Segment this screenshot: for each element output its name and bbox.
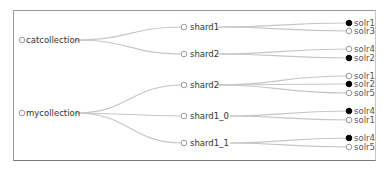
shard-node-my-shard1_1[interactable]: shard1_1 — [181, 138, 229, 148]
leader-node-icon — [346, 108, 352, 114]
replica-node[interactable]: solr5 — [346, 142, 375, 152]
shard-label: shard1 — [190, 22, 219, 32]
collection-node-catcollection[interactable]: catcollection — [19, 35, 80, 45]
link-shard2b-solr5 — [218, 85, 348, 93]
replica-node[interactable]: solr5 — [346, 88, 375, 98]
node-circle-icon — [181, 24, 187, 30]
replica-label: solr5 — [354, 88, 375, 98]
replica-node[interactable]: solr3 — [346, 26, 375, 36]
node-circle-icon — [181, 140, 187, 146]
link-shard1_1-solr5 — [230, 143, 348, 147]
shard-label: shard2 — [190, 49, 219, 59]
replica-node[interactable]: solr2 — [346, 53, 375, 63]
shard-node-my-shard1_0[interactable]: shard1_0 — [181, 111, 229, 121]
replica-node-icon — [346, 90, 352, 96]
cloud-tree-graph: catcollection mycollection shard1 shard2… — [0, 0, 392, 170]
collection-label: catcollection — [26, 35, 80, 45]
replica-label: solr1 — [354, 115, 375, 125]
leader-node-icon — [346, 20, 352, 26]
link-mycollection-shard2 — [75, 85, 183, 113]
link-shard1_1-solr4 — [230, 138, 348, 143]
replica-node-icon — [346, 28, 352, 34]
replica-node[interactable]: solr1 — [346, 115, 375, 125]
leader-node-icon — [346, 135, 352, 141]
shard-label: shard1_0 — [190, 111, 229, 121]
collection-node-mycollection[interactable]: mycollection — [19, 108, 80, 118]
link-shard1_0-solr4 — [230, 111, 348, 116]
collection-label: mycollection — [26, 108, 80, 118]
link-shard1_0-solr1 — [230, 116, 348, 120]
replica-label: solr5 — [354, 142, 375, 152]
link-shard2-solr2 — [218, 54, 348, 58]
replica-label: solr3 — [354, 26, 375, 36]
link-catcollection-shard1 — [75, 27, 183, 40]
shard-node-my-shard2[interactable]: shard2 — [181, 80, 219, 90]
node-circle-icon — [19, 37, 25, 43]
link-shard1-solr3 — [218, 27, 348, 31]
node-circle-icon — [181, 51, 187, 57]
node-circle-icon — [181, 82, 187, 88]
shard-node-cat-shard2[interactable]: shard2 — [181, 49, 219, 59]
node-circle-icon — [19, 110, 25, 116]
shard-label: shard2 — [190, 80, 219, 90]
replica-node-icon — [346, 73, 352, 79]
link-shard2-solr4 — [218, 49, 348, 54]
link-catcollection-shard2 — [75, 40, 183, 54]
shard-node-cat-shard1[interactable]: shard1 — [181, 22, 219, 32]
node-circle-icon — [181, 113, 187, 119]
leader-node-icon — [346, 81, 352, 87]
replica-node-icon — [346, 144, 352, 150]
link-shard1-solr1 — [218, 23, 348, 27]
replica-node-icon — [346, 117, 352, 123]
shard-label: shard1_1 — [190, 138, 229, 148]
link-mycollection-shard1_1 — [75, 113, 183, 143]
replica-label: solr2 — [354, 53, 375, 63]
replica-node-icon — [346, 46, 352, 52]
leader-node-icon — [346, 55, 352, 61]
